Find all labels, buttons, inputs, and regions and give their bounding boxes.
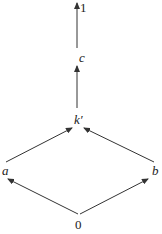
edge-b-to-kprime <box>84 128 154 162</box>
node-1: 1 <box>80 0 87 15</box>
node-0: 0 <box>75 217 82 232</box>
edge-0-to-b <box>80 179 148 214</box>
node-c: c <box>79 50 85 65</box>
edge-0-to-a <box>8 179 78 214</box>
node-a: a <box>2 163 9 178</box>
edge-a-to-kprime <box>6 128 72 162</box>
node-kprime: k′ <box>74 112 83 127</box>
node-b: b <box>152 163 159 178</box>
lattice-diagram: 1 c k′ a b 0 <box>0 0 162 234</box>
